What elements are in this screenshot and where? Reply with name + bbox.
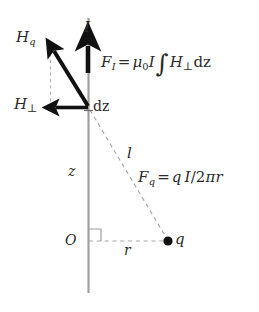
- right-angle-marker: [89, 229, 101, 241]
- label-h-q: Hq: [16, 30, 36, 47]
- label-origin-o: O: [65, 233, 76, 247]
- label-radius-r: r: [124, 243, 131, 257]
- label-h-q-subscript: q: [29, 36, 36, 47]
- label-h-perp-subscript: ⊥: [27, 102, 37, 115]
- charge-point-q: [163, 236, 172, 245]
- label-h-perp: H⊥: [14, 97, 38, 114]
- physics-diagram: Hq H⊥ I dz z l O r q FI=μ0I∫H⊥dz Fq=q I/…: [0, 0, 259, 312]
- hq-vector-arrow: [54, 51, 88, 106]
- label-z-axis: z: [68, 164, 75, 178]
- formula-force-q: Fq=q I/2πr: [138, 170, 223, 187]
- label-charge-q: q: [175, 232, 185, 247]
- label-current-i: I: [84, 20, 90, 35]
- label-length-l: l: [127, 146, 132, 161]
- label-dz: dz: [93, 99, 109, 113]
- formula-force-i: FI=μ0I∫H⊥dz: [101, 52, 211, 77]
